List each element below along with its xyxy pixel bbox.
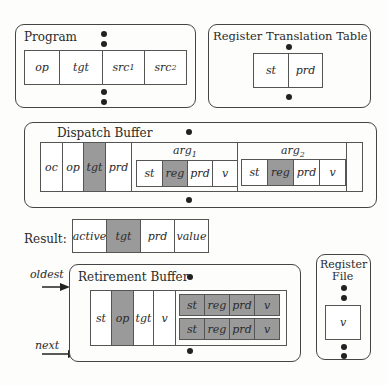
ellipsis-dot [341, 295, 347, 301]
ret-arg-row1-st: st [179, 294, 205, 316]
oldest-arrow-icon [40, 282, 72, 292]
retirement-field-tgt: tgt [133, 290, 154, 346]
retirement-field-st: st [90, 290, 112, 346]
result-field-active: active [72, 219, 107, 253]
ret-arg-row2-prd: prd [229, 318, 255, 340]
ellipsis-dot [101, 31, 107, 37]
retirement-field-op: op [111, 290, 134, 346]
dispatch-title: Dispatch Buffer [57, 126, 152, 140]
ret-arg-row2-reg: reg [204, 318, 230, 340]
rtt-box: Register Translation Table st prd [208, 24, 371, 108]
arg1-prd: prd [187, 160, 213, 187]
retirement-title: Retirement Buffer [78, 270, 188, 284]
oldest-pointer-label: oldest [30, 268, 64, 281]
ellipsis-dot [186, 129, 192, 135]
program-field-src1: src1 [102, 50, 145, 85]
ellipsis-dot [286, 94, 292, 100]
arg2-v: v [319, 159, 346, 186]
dispatch-buffer-box: Dispatch Buffer oc op tgt prd arg1 st re… [24, 122, 377, 208]
program-title: Program [24, 30, 77, 44]
retirement-field-v: v [153, 290, 176, 346]
dispatch-arg2-label: arg2 [281, 144, 305, 159]
arg2-prd: prd [293, 159, 320, 186]
program-field-src2: src2 [144, 50, 187, 85]
ret-arg-row2-st: st [179, 318, 205, 340]
dispatch-field-tgt: tgt [83, 142, 106, 192]
arg2-st: st [241, 159, 268, 186]
rtt-field-prd: prd [288, 53, 323, 88]
ret-arg-row1-reg: reg [204, 294, 230, 316]
program-field-op: op [24, 50, 60, 85]
ret-arg-row1-v: v [254, 294, 280, 316]
result-field-tgt: tgt [106, 219, 141, 253]
dispatch-field-oc: oc [40, 142, 63, 192]
program-field-tgt: tgt [59, 50, 103, 85]
dispatch-field-op: op [62, 142, 84, 192]
rtt-title: Register Translation Table [213, 29, 368, 43]
ellipsis-dot [341, 344, 347, 350]
rtt-field-st: st [253, 53, 289, 88]
ellipsis-dot [101, 89, 107, 95]
dispatch-arg1-label: arg1 [173, 144, 197, 159]
register-file-box: Register File v [316, 254, 371, 360]
arg1-v: v [212, 160, 238, 187]
ellipsis-dot [101, 99, 107, 105]
result-field-value: value [174, 219, 209, 253]
dispatch-field-prd: prd [105, 142, 132, 192]
ellipsis-dot [186, 197, 192, 203]
register-file-field-v: v [325, 305, 361, 340]
ellipsis-dot [187, 348, 193, 354]
arg1-reg: reg [162, 160, 188, 187]
result-label: Result: [24, 232, 67, 246]
ret-arg-row1-prd: prd [229, 294, 255, 316]
retirement-buffer-box: Retirement Buffer st op tgt v st reg prd… [69, 264, 301, 362]
ellipsis-dot [187, 274, 193, 280]
result-field-prd: prd [140, 219, 175, 253]
ellipsis-dot [341, 353, 347, 359]
program-box: Program op tgt src1 src2 [15, 24, 196, 108]
ellipsis-dot [101, 41, 107, 47]
register-file-title-line2: File [332, 270, 353, 283]
arg1-st: st [136, 160, 163, 187]
ellipsis-dot [341, 285, 347, 291]
ret-arg-row2-v: v [254, 318, 280, 340]
ellipsis-dot [286, 44, 292, 50]
arg2-reg: reg [267, 159, 294, 186]
